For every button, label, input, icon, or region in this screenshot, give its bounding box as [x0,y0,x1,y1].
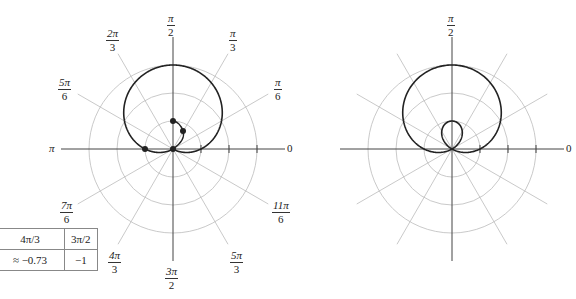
grid-ray [78,149,173,204]
label-7pi-over-6: 7π6 [60,200,73,225]
label-pi: π [49,143,55,154]
table-cell: 4π/3 [0,229,65,250]
grid-ray [397,54,452,149]
label-4pi-over-3: 4π3 [108,250,121,275]
table-cell: ≈ −0.73 [0,250,65,271]
label-right-pi-over-2: π2 [447,13,455,38]
label-5pi-over-6: 5π6 [58,77,71,102]
grid-ray [173,54,228,149]
label-pi-over-6: π6 [274,77,282,102]
right-polar-plot [340,37,564,261]
label-pi-over-2: π2 [167,13,175,38]
label-11pi-over-6: 11π6 [272,200,290,225]
label-zero-left: 0 [287,143,293,154]
grid-ray [118,149,173,244]
grid-ray [173,149,228,244]
grid-ray [452,54,507,149]
grid-ray [173,149,268,204]
table-cell: 3π/2 [65,229,98,250]
label-5pi-over-3: 5π3 [230,250,243,275]
partial-inner-arc [173,121,184,149]
grid-ray [452,149,507,244]
grid-ray [357,149,452,204]
label-pi-over-3: π3 [229,28,237,53]
table-cell: −1 [65,250,98,271]
grid-ray [397,149,452,244]
plotted-point [142,146,148,152]
label-2pi-over-3: 2π3 [106,28,119,53]
grid-ray [452,149,547,204]
plotted-point [170,146,176,152]
table-row-r: ≈ −0.73 −1 [0,250,97,271]
grid-ray [118,54,173,149]
plotted-point [170,118,176,124]
label-3pi-over-2: 3π2 [165,266,178,291]
table-row-theta: 4π/3 3π/2 [0,229,97,250]
values-table: 4π/3 3π/2 ≈ −0.73 −1 [0,228,98,271]
label-zero-right: 0 [566,143,572,154]
plotted-point [180,128,186,134]
